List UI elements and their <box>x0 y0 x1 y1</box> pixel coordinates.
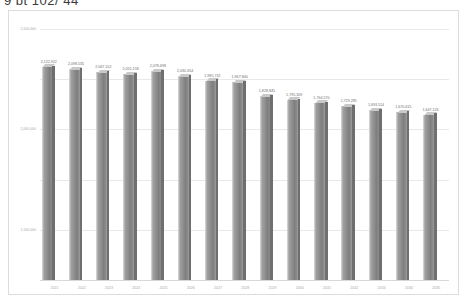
x-axis-tick-label: 2024 <box>132 286 140 290</box>
screenshot-root: 9 bt 102/ 44 0500,0001,000,0001,500,0002… <box>0 0 467 303</box>
bar-value-label: 1,764,570 <box>313 96 329 100</box>
x-axis-tick-label: 2031 <box>323 286 331 290</box>
bar[interactable]: 2,030,654 <box>178 76 189 280</box>
bar[interactable]: 1,967,840 <box>232 82 243 280</box>
x-axis-tick-label: 2035 <box>432 286 440 290</box>
x-axis-tick-label: 2029 <box>269 286 277 290</box>
x-axis-tick-label: 2032 <box>350 286 358 290</box>
bar-value-label: 1,985,732 <box>204 74 220 78</box>
bar-series: 2,122,92220212,098,53520222,067,10220232… <box>40 29 449 280</box>
window-title: 9 bt 102/ 44 <box>4 0 79 8</box>
x-axis-tick-label: 2033 <box>378 286 386 290</box>
x-axis-tick-label: 2023 <box>105 286 113 290</box>
bar-group: 2,078,6982025 <box>149 29 176 280</box>
bar[interactable]: 2,067,102 <box>96 72 107 280</box>
x-axis-tick-label: 2022 <box>78 286 86 290</box>
bar[interactable]: 1,764,570 <box>314 103 325 280</box>
window-title-strip: 9 bt 102/ 44 <box>0 0 467 9</box>
bar-group: 1,764,5702031 <box>313 29 340 280</box>
bar[interactable]: 1,693,514 <box>369 110 380 280</box>
bar-value-label: 2,052,158 <box>123 67 139 71</box>
x-axis-tick-label: 2030 <box>296 286 304 290</box>
x-axis-tick-label: 2026 <box>187 286 195 290</box>
bar-group: 1,985,7322027 <box>204 29 231 280</box>
x-axis-tick-label: 2025 <box>159 286 167 290</box>
x-axis-tick-label: 2028 <box>241 286 249 290</box>
bar[interactable]: 1,985,732 <box>205 81 216 280</box>
bar-group: 2,052,1582024 <box>122 29 149 280</box>
bar-group: 2,030,6542026 <box>176 29 203 280</box>
x-axis-tick-label: 2034 <box>405 286 413 290</box>
bar-group: 1,967,8402028 <box>231 29 258 280</box>
plot-area: 0500,0001,000,0001,500,0002,000,0002,500… <box>40 29 449 280</box>
y-axis-tick-label: 2,000,000 <box>20 127 36 131</box>
bar[interactable]: 2,122,922 <box>42 67 53 280</box>
bar[interactable]: 2,098,535 <box>69 69 80 280</box>
bar-value-label: 1,795,309 <box>286 93 302 97</box>
bar-value-label: 2,122,922 <box>41 60 57 64</box>
bar[interactable]: 1,670,615 <box>396 112 407 280</box>
x-axis-tick-label: 2021 <box>50 286 58 290</box>
bar[interactable]: 2,078,698 <box>151 71 162 280</box>
bar-group: 1,670,6152034 <box>394 29 421 280</box>
bar-value-label: 1,828,845 <box>259 89 275 93</box>
bar-group: 1,828,8452029 <box>258 29 285 280</box>
y-axis-tick-label: 1,500,000 <box>20 228 36 232</box>
bar-value-label: 2,078,698 <box>150 64 166 68</box>
bar-group: 2,122,9222021 <box>40 29 67 280</box>
bar-group: 1,647,1262035 <box>422 29 449 280</box>
bar-value-label: 1,647,126 <box>422 108 438 112</box>
bar[interactable]: 2,052,158 <box>123 74 134 280</box>
bar[interactable]: 1,647,126 <box>423 115 434 280</box>
bar-value-label: 2,067,102 <box>95 65 111 69</box>
bar-value-label: 1,967,840 <box>232 75 248 79</box>
x-axis-tick-label: 2027 <box>214 286 222 290</box>
y-axis-tick-label: 2,500,000 <box>20 27 36 31</box>
bar-group: 2,067,1022023 <box>95 29 122 280</box>
bar-value-label: 1,693,514 <box>368 103 384 107</box>
bar-group: 1,795,3092030 <box>285 29 312 280</box>
bar[interactable]: 1,729,285 <box>341 106 352 280</box>
bar-group: 1,693,5142033 <box>367 29 394 280</box>
bar[interactable]: 1,828,845 <box>260 96 271 280</box>
bar-value-label: 1,670,615 <box>395 105 411 109</box>
bar-group: 1,729,2852032 <box>340 29 367 280</box>
bar-group: 2,098,5352022 <box>67 29 94 280</box>
bar[interactable]: 1,795,309 <box>287 100 298 280</box>
chart-container: 0500,0001,000,0001,500,0002,000,0002,500… <box>8 10 459 295</box>
bar-value-label: 1,729,285 <box>341 99 357 103</box>
bar-value-label: 2,030,654 <box>177 69 193 73</box>
bar-value-label: 2,098,535 <box>68 62 84 66</box>
gridline: 0 <box>40 280 449 281</box>
